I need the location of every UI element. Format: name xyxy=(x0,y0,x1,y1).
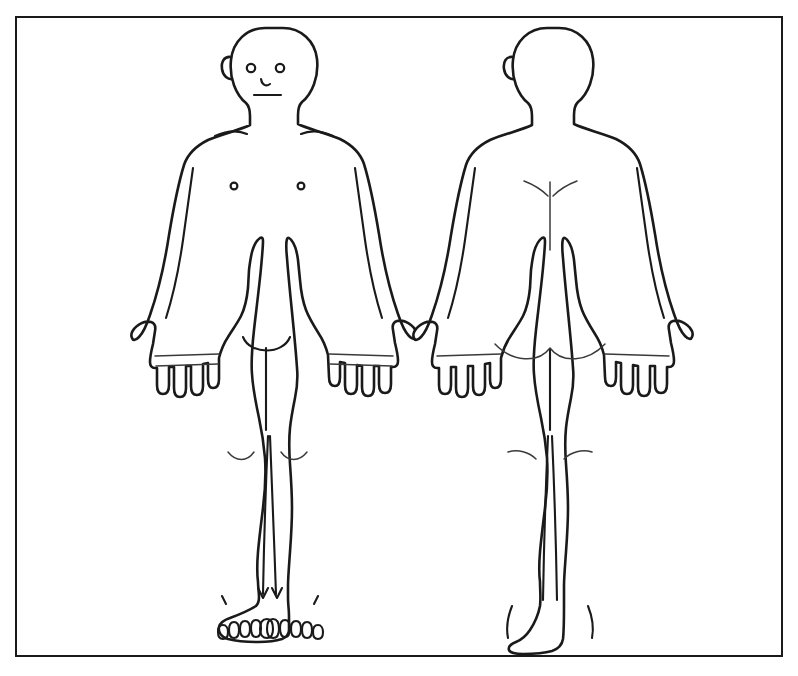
anterior-figure[interactable] xyxy=(131,28,416,642)
posterior-left-heel-line xyxy=(507,606,512,638)
anterior-left-eye-icon xyxy=(247,64,255,72)
body-diagram-page: Anterior Posterior xyxy=(0,0,798,676)
anterior-left-knee-crease xyxy=(228,452,254,460)
posterior-left-popliteal-crease xyxy=(508,451,536,459)
body-figures-canvas xyxy=(0,0,798,676)
anterior-right-outer-ankle-mark xyxy=(314,596,318,604)
posterior-right-heel-line xyxy=(588,606,593,638)
anterior-left-nipple xyxy=(231,183,238,190)
anterior-left-outer-ankle-mark xyxy=(222,596,226,604)
posterior-figure[interactable] xyxy=(413,28,692,654)
anterior-right-nipple xyxy=(298,183,305,190)
posterior-right-popliteal-crease xyxy=(564,451,592,459)
posterior-body-outline[interactable] xyxy=(413,28,692,654)
anterior-right-eye-icon xyxy=(276,64,284,72)
